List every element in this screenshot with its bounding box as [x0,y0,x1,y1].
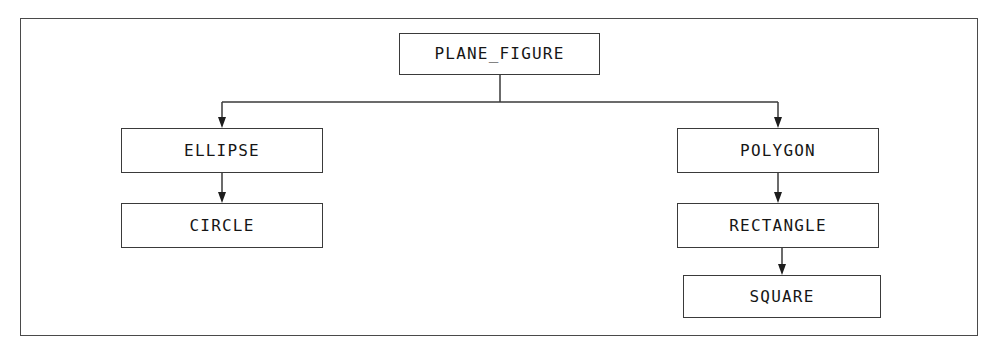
node-plane-figure[interactable]: PLANE_FIGURE [399,33,600,75]
node-label-ellipse: ELLIPSE [184,143,260,159]
node-circle[interactable]: CIRCLE [121,203,323,248]
node-ellipse[interactable]: ELLIPSE [121,128,323,173]
node-rectangle[interactable]: RECTANGLE [677,203,879,248]
node-label-polygon: POLYGON [740,143,816,159]
node-label-rectangle: RECTANGLE [729,218,827,234]
node-label-square: SQUARE [750,289,815,305]
node-polygon[interactable]: POLYGON [677,128,879,173]
node-label-plane-figure: PLANE_FIGURE [435,46,565,62]
node-label-circle: CIRCLE [190,218,255,234]
node-square[interactable]: SQUARE [683,275,881,318]
diagram-canvas: PLANE_FIGURE ELLIPSE CIRCLE POLYGON RECT… [0,0,996,356]
